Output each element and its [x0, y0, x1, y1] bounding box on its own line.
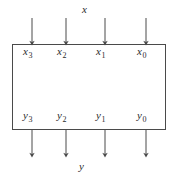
port-index-x0: 0: [142, 51, 147, 60]
port-label-y1: y1: [96, 110, 105, 124]
port-label-x1: x1: [96, 46, 105, 60]
port-label-y3: y3: [23, 110, 32, 124]
port-label-y2: y2: [57, 110, 66, 124]
input-arrows: [32, 18, 146, 43]
port-label-y0: y0: [137, 110, 146, 124]
output-bus-label: y: [79, 160, 84, 172]
output-arrows: [32, 130, 146, 155]
diagram-canvas: [0, 0, 185, 177]
port-index-x2: 2: [62, 51, 67, 60]
block-diagram: x x3 x2 x1 x0 y3 y2 y1 y0 y: [0, 0, 185, 177]
port-label-x2: x2: [57, 46, 66, 60]
port-index-y1: 1: [101, 115, 106, 124]
port-index-x3: 3: [28, 51, 33, 60]
input-bus-label: x: [82, 3, 87, 15]
port-index-y2: 2: [62, 115, 67, 124]
port-index-y3: 3: [28, 115, 33, 124]
port-label-x0: x0: [137, 46, 146, 60]
port-index-y0: 0: [142, 115, 147, 124]
port-index-x1: 1: [101, 51, 106, 60]
port-label-x3: x3: [23, 46, 32, 60]
